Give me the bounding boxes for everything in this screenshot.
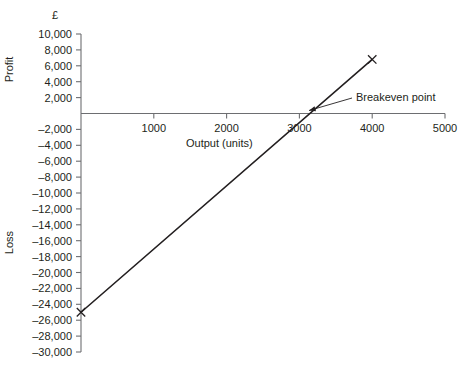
data-point-marker-x [368,55,376,63]
series-line [81,59,372,312]
y-axis [76,34,81,352]
annotation-leader-line [309,98,352,111]
annotation-arrowhead [309,106,316,111]
data-series [77,55,377,316]
plot-area [0,0,464,369]
breakeven-chart: £ Profit Loss Output (units) Breakeven p… [0,0,464,369]
x-axis [81,114,445,119]
